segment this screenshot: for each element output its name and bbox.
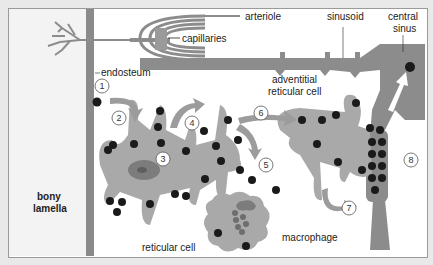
svg-text:1: 1 <box>99 81 104 91</box>
label-endosteum: endosteum <box>101 67 150 78</box>
label-adventitial-reticular: reticular cell <box>268 86 321 97</box>
svg-text:6: 6 <box>258 108 263 118</box>
label-arteriole: arteriole <box>245 11 282 22</box>
label-lamella: lamella <box>33 203 67 214</box>
label-reticular-cell: reticular cell <box>142 242 195 253</box>
svg-text:3: 3 <box>160 154 165 164</box>
svg-text:5: 5 <box>263 160 268 170</box>
label-central: central <box>388 11 418 22</box>
adventitial-reticular-cell-shape <box>278 95 373 200</box>
svg-text:8: 8 <box>408 155 413 165</box>
bone-marrow-diagram: arteriole capillaries sinusoid central s… <box>0 0 433 265</box>
label-sinusoid: sinusoid <box>327 11 364 22</box>
label-bony: bony <box>37 191 61 202</box>
label-adventitial: adventitial <box>272 74 317 85</box>
svg-text:2: 2 <box>116 113 121 123</box>
svg-text:4: 4 <box>189 118 194 128</box>
label-capillaries: capillaries <box>182 33 226 44</box>
endosteum-layer <box>86 9 94 256</box>
vein-trunk <box>370 200 390 250</box>
svg-text:7: 7 <box>346 203 351 213</box>
label-sinus: sinus <box>393 23 416 34</box>
label-macrophage: macrophage <box>282 232 338 243</box>
